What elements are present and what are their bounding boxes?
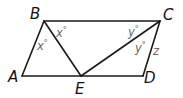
segment-ce: [81, 21, 160, 76]
vertex-label-d: D: [144, 69, 156, 87]
vertex-label-e: E: [75, 80, 85, 98]
angle-label-abe: x°: [36, 39, 48, 53]
vertex-label-c: C: [163, 6, 174, 24]
geometry-diagram: B C A E D x° x° y° y° z: [0, 0, 183, 98]
side-label-cd: z: [152, 44, 160, 58]
vertex-label-a: A: [7, 68, 18, 86]
vertex-label-b: B: [30, 5, 40, 23]
angle-label-ecd: y°: [134, 41, 146, 55]
angle-label-ebc: x°: [55, 26, 67, 40]
